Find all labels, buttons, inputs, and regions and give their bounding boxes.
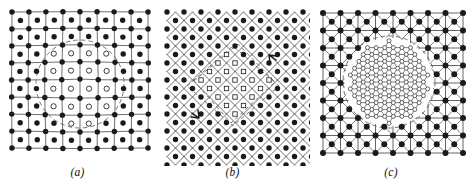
lattice-atom bbox=[283, 128, 288, 133]
lattice-atom bbox=[120, 137, 125, 142]
lattice-atom bbox=[460, 98, 466, 104]
lattice-atom bbox=[241, 137, 246, 142]
lattice-atom bbox=[451, 71, 457, 77]
lattice-atom bbox=[207, 137, 212, 142]
lattice-atom bbox=[329, 54, 335, 60]
lattice-atom bbox=[181, 77, 186, 82]
lattice-atom bbox=[190, 154, 195, 159]
lattice-atom bbox=[320, 80, 326, 86]
lattice-atom bbox=[381, 19, 387, 25]
lattice-atom bbox=[320, 115, 326, 121]
lattice-atom bbox=[241, 35, 246, 40]
lattice-atom bbox=[451, 141, 457, 147]
lattice-atom bbox=[190, 120, 195, 125]
lattice-atom bbox=[69, 34, 74, 39]
lattice-atom bbox=[103, 137, 108, 142]
lattice-atom bbox=[300, 145, 305, 150]
inclusion-atom bbox=[374, 87, 378, 91]
lattice-atom bbox=[460, 45, 466, 51]
lattice-atom bbox=[34, 69, 39, 74]
atom-group bbox=[164, 9, 310, 166]
lattice-atom bbox=[112, 112, 117, 117]
inclusion-atom bbox=[86, 51, 91, 56]
lattice-atom bbox=[292, 69, 297, 74]
lattice-atom bbox=[232, 128, 237, 133]
lattice-atom bbox=[408, 28, 414, 34]
lattice-atom bbox=[129, 77, 134, 82]
lattice-atom bbox=[346, 124, 352, 130]
inclusion-atom bbox=[216, 61, 220, 65]
lattice-atom bbox=[283, 145, 288, 150]
lattice-atom bbox=[434, 19, 440, 25]
inclusion-atom bbox=[224, 69, 228, 73]
lattice-atom bbox=[329, 89, 335, 95]
inclusion-atom bbox=[353, 80, 357, 84]
inclusion-atom bbox=[370, 80, 374, 84]
lattice-atom bbox=[111, 146, 116, 151]
inclusion-atom bbox=[413, 94, 417, 98]
lattice-atom bbox=[408, 10, 414, 16]
lattice-atom bbox=[329, 106, 335, 112]
lattice-atom bbox=[320, 98, 326, 104]
lattice-atom bbox=[390, 10, 396, 16]
lattice-atom bbox=[26, 112, 31, 117]
lattice-atom bbox=[329, 36, 335, 42]
inclusion-atom bbox=[366, 87, 370, 91]
inclusion-atom bbox=[216, 95, 220, 99]
lattice-atom bbox=[443, 115, 449, 121]
lattice-atom bbox=[451, 54, 457, 60]
lattice-atom bbox=[292, 35, 297, 40]
lattice-atom bbox=[425, 133, 431, 139]
lattice-atom bbox=[207, 35, 212, 40]
inclusion-atom bbox=[426, 73, 430, 77]
inclusion-atom bbox=[374, 73, 378, 77]
lattice-atom bbox=[112, 129, 117, 134]
lattice-atom bbox=[451, 106, 457, 112]
lattice-atom bbox=[129, 60, 134, 65]
lattice-atom bbox=[460, 10, 466, 16]
lattice-atom bbox=[181, 26, 186, 31]
lattice-atom bbox=[60, 42, 65, 47]
lattice-atom bbox=[416, 141, 422, 147]
lattice-atom bbox=[338, 10, 344, 16]
lattice-atom bbox=[338, 150, 344, 156]
lattice-atom bbox=[224, 120, 229, 125]
inclusion-atom bbox=[378, 108, 382, 112]
lattice-atom bbox=[443, 80, 449, 86]
lattice-atom bbox=[42, 60, 47, 65]
lattice-atom bbox=[346, 141, 352, 147]
lattice-atom bbox=[60, 112, 65, 117]
inclusion-atom bbox=[216, 78, 220, 82]
lattice-atom bbox=[460, 133, 466, 139]
lattice-atom bbox=[190, 137, 195, 142]
lattice-atom bbox=[434, 141, 440, 147]
lattice-atom bbox=[338, 133, 344, 139]
lattice-atom bbox=[241, 18, 246, 23]
lattice-atom bbox=[77, 129, 82, 134]
lattice-atom bbox=[434, 106, 440, 112]
lattice-atom bbox=[232, 26, 237, 31]
inclusion-atom bbox=[391, 59, 395, 63]
lattice-atom bbox=[364, 124, 370, 130]
lattice-atom bbox=[26, 129, 31, 134]
lattice-atom bbox=[34, 103, 39, 108]
inclusion-atom bbox=[421, 66, 425, 70]
lattice-atom bbox=[275, 35, 280, 40]
lattice-atom bbox=[145, 43, 150, 48]
lattice-atom bbox=[145, 9, 150, 14]
lattice-atom bbox=[190, 103, 195, 108]
lattice-atom bbox=[434, 71, 440, 77]
inclusion-atom bbox=[417, 73, 421, 77]
inclusion-atom bbox=[207, 86, 211, 90]
inclusion-atom bbox=[374, 46, 378, 50]
lattice-atom bbox=[364, 36, 370, 42]
lattice-atom bbox=[137, 35, 142, 40]
inclusion-atom bbox=[391, 46, 395, 50]
lattice-atom bbox=[207, 103, 212, 108]
lattice-atom bbox=[232, 145, 237, 150]
lattice-atom bbox=[451, 36, 457, 42]
lattice-atom bbox=[300, 26, 305, 31]
inclusion-atom bbox=[366, 101, 370, 105]
lattice-atom bbox=[26, 43, 31, 48]
lattice-atom bbox=[241, 120, 246, 125]
